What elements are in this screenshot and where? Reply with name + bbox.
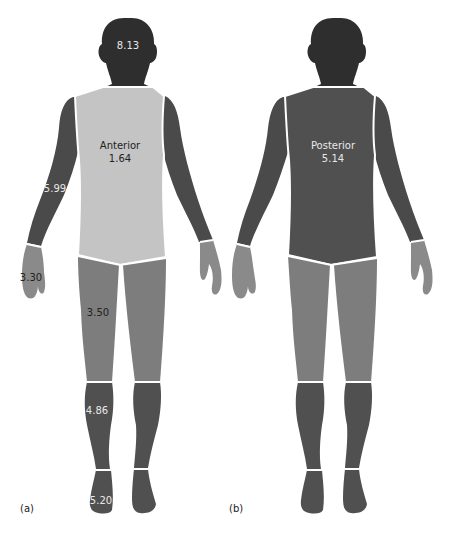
calf-value: 4.86 xyxy=(86,405,108,416)
foot-region-right xyxy=(343,469,367,513)
torso-title: Posterior xyxy=(311,140,356,151)
thigh-region-right xyxy=(334,258,377,382)
foot-value: 5.20 xyxy=(90,495,112,506)
calf-region-left xyxy=(85,382,114,469)
foot-region-left xyxy=(301,470,324,514)
figure-anterior: 8.13 Anterior 1.64 5.99 3.30 3.50 4.86 5… xyxy=(20,18,222,514)
hand-value: 3.30 xyxy=(20,272,42,283)
head-region xyxy=(308,18,367,88)
panel-label-b: (b) xyxy=(229,503,243,514)
body-map-figure: 8.13 Anterior 1.64 5.99 3.30 3.50 4.86 5… xyxy=(0,0,454,536)
thigh-region-left xyxy=(288,256,330,382)
hand-region-left xyxy=(232,244,256,299)
torso-title: Anterior xyxy=(100,140,141,151)
thigh-region-right xyxy=(123,258,166,382)
upper-arm-region-right xyxy=(163,96,213,242)
calf-region-left xyxy=(296,382,325,469)
figure-posterior: Posterior 5.14 (b) xyxy=(229,18,433,514)
head-value: 8.13 xyxy=(117,40,139,51)
torso-value: 5.14 xyxy=(322,153,344,164)
hand-region-right xyxy=(411,240,433,295)
upper-arm-region-left xyxy=(237,97,288,246)
calf-region-right xyxy=(344,382,372,468)
panel-label-a: (a) xyxy=(20,503,34,514)
foot-region-right xyxy=(132,469,156,513)
torso-anterior-region xyxy=(75,87,166,265)
torso-posterior-region xyxy=(285,87,377,265)
hand-region-right xyxy=(200,240,222,295)
torso-value: 1.64 xyxy=(109,153,131,164)
head-region xyxy=(99,18,158,88)
thigh-region-left xyxy=(78,256,119,382)
calf-region-right xyxy=(133,382,161,468)
foot-region-left xyxy=(90,470,113,514)
upper-arm-region-left xyxy=(27,97,78,246)
upper-arm-value: 5.99 xyxy=(44,183,66,194)
upper-arm-region-right xyxy=(374,96,424,242)
thigh-value: 3.50 xyxy=(87,307,109,318)
